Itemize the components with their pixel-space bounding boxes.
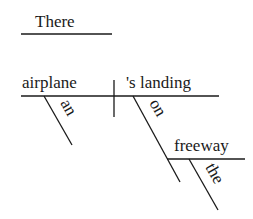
word-an: an [57,96,82,120]
word-the: the [202,160,229,187]
word-subject: airplane [22,73,77,92]
sentence-diagram: There airplane 's landing an on freeway … [0,0,253,219]
word-freeway: freeway [174,136,229,155]
word-there: There [35,12,75,31]
word-on: on [146,96,171,121]
word-predicate: 's landing [126,73,191,92]
